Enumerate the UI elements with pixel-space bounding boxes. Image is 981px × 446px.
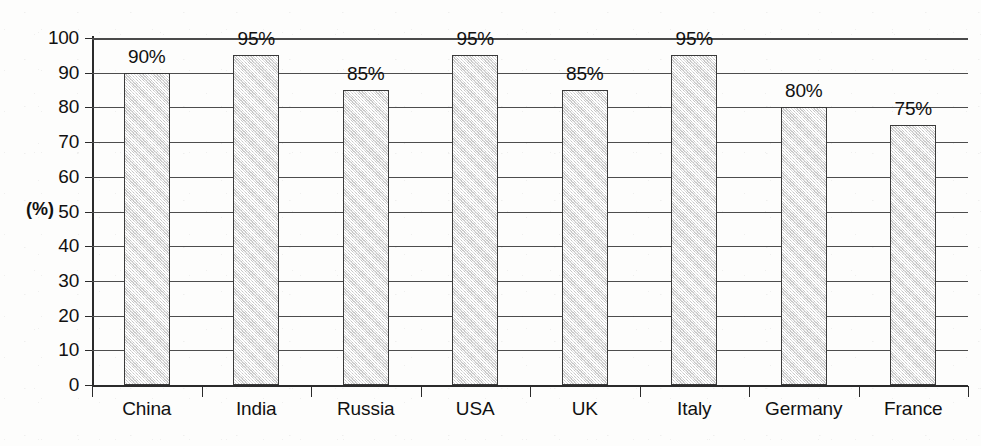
- gridline-90: [92, 73, 968, 74]
- bar-value-label-usa: 95%: [435, 29, 515, 48]
- y-axis-label-60: 60: [33, 167, 79, 186]
- x-axis-label-uk: UK: [525, 399, 645, 419]
- x-axis-label-china: China: [87, 399, 207, 419]
- gridline-40: [92, 246, 968, 247]
- x-axis-tick-3: [421, 386, 422, 397]
- gridline-60: [92, 177, 968, 178]
- bar-china: [124, 73, 170, 385]
- bar-italy: [671, 55, 717, 385]
- gridline-50: [92, 212, 968, 213]
- y-axis-label-40: 40: [33, 236, 79, 255]
- bar-germany: [781, 107, 827, 385]
- bar-value-label-china: 90%: [107, 47, 187, 66]
- gridline-10: [92, 350, 968, 351]
- bar-france: [890, 125, 936, 385]
- y-axis-label-20: 20: [33, 306, 79, 325]
- gridline-70: [92, 142, 968, 143]
- bar-chart: (%) 0102030405060708090100 90%95%85%95%8…: [0, 0, 981, 446]
- y-axis-label-50: 50: [33, 202, 79, 221]
- bar-uk: [562, 90, 608, 385]
- bar-usa: [452, 55, 498, 385]
- bar-india: [233, 55, 279, 385]
- gridline-80: [92, 107, 968, 108]
- bar-value-label-france: 75%: [873, 99, 953, 118]
- y-axis-label-100: 100: [33, 28, 79, 47]
- x-axis-tick-5: [640, 386, 641, 397]
- bar-russia: [343, 90, 389, 385]
- y-axis-label-70: 70: [33, 132, 79, 151]
- x-axis-label-india: India: [196, 399, 316, 419]
- bar-value-label-russia: 85%: [326, 64, 406, 83]
- x-axis-label-italy: Italy: [634, 399, 754, 419]
- y-axis-label-80: 80: [33, 97, 79, 116]
- y-axis-label-0: 0: [33, 375, 79, 394]
- gridline-30: [92, 281, 968, 282]
- x-axis-tick-8: [968, 386, 969, 397]
- x-axis-tick-4: [530, 386, 531, 397]
- x-axis-label-germany: Germany: [744, 399, 864, 419]
- x-axis-label-usa: USA: [415, 399, 535, 419]
- x-axis-label-russia: Russia: [306, 399, 426, 419]
- x-axis-label-france: France: [853, 399, 973, 419]
- y-axis-label-10: 10: [33, 340, 79, 359]
- x-axis-tick-7: [859, 386, 860, 397]
- x-axis-tick-1: [202, 386, 203, 397]
- bar-value-label-india: 95%: [216, 29, 296, 48]
- y-axis-label-30: 30: [33, 271, 79, 290]
- gridline-20: [92, 316, 968, 317]
- y-axis-label-90: 90: [33, 63, 79, 82]
- x-axis-tick-0: [92, 386, 93, 397]
- x-axis-tick-2: [311, 386, 312, 397]
- bar-value-label-germany: 80%: [764, 81, 844, 100]
- bar-value-label-italy: 95%: [654, 29, 734, 48]
- x-axis-tick-6: [749, 386, 750, 397]
- bar-value-label-uk: 85%: [545, 64, 625, 83]
